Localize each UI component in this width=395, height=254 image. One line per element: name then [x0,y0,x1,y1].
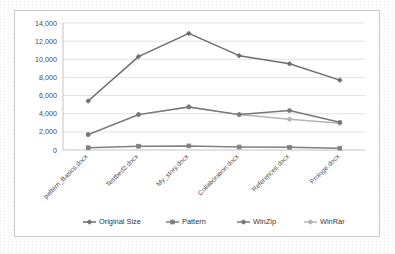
data-point [338,146,342,150]
data-point [338,78,343,83]
x-axis-tick-label: Testbed2.docx [104,152,140,188]
series-original-size [86,31,342,103]
data-point [137,113,141,117]
series-line [88,33,340,101]
series-line [88,146,340,148]
data-point [137,144,141,148]
x-axis-tick-label: References.docx [250,152,290,192]
data-point [288,109,292,113]
chart-plot-area: 02,0004,0006,0008,00010,00012,00014,000p… [15,11,379,236]
x-axis-tick-label: My_story.docx [155,152,191,188]
line-chart: 02,0004,0006,0008,00010,00012,00014,000p… [15,11,379,236]
chart-frame: 02,0004,0006,0008,00010,00012,00014,000p… [14,10,380,237]
y-axis-tick-label: 10,000 [35,55,57,64]
data-point [187,31,192,36]
y-axis-tick-label: 4,000 [39,109,57,118]
y-axis-tick-label: 0 [53,146,57,155]
y-axis-tick-label: 6,000 [39,91,57,100]
data-point [237,113,241,117]
data-point [288,145,292,149]
legend-label-0[interactable]: Original Size [99,217,141,226]
legend-marker-1 [171,220,175,224]
data-point [187,105,191,109]
chart-legend: Original SizePatternWinZipWinRar [83,217,345,226]
data-point [237,53,242,58]
legend-label-1[interactable]: Pattern [182,217,206,226]
x-axis-tick-label: Prologe.docx [308,152,341,185]
series-pattern [86,144,341,150]
data-point [287,62,292,67]
legend-marker-0 [87,220,92,225]
data-point [86,146,90,150]
legend-label-2[interactable]: WinZip [253,217,276,226]
data-point [187,144,191,148]
legend-label-3[interactable]: WinRar [320,217,345,226]
y-axis-tick-label: 8,000 [39,73,57,82]
y-axis-tick-label: 14,000 [35,19,57,28]
data-point [86,133,90,137]
data-point [237,145,241,149]
legend-marker-3 [309,220,313,224]
y-axis-tick-label: 12,000 [35,37,57,46]
data-point [288,117,292,121]
x-axis-tick-label: Collaboration.docx [196,152,240,196]
legend-marker-2 [242,220,246,224]
data-point [338,120,342,124]
y-axis-tick-label: 2,000 [39,127,57,136]
x-axis-tick-label: pattern_Basics.docx [42,152,90,200]
